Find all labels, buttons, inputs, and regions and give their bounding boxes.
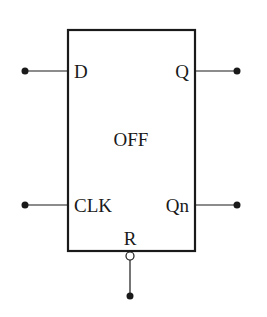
qn-label: Qn	[166, 195, 190, 216]
flip-flop-diagram: D Q OFF CLK Qn R	[0, 0, 267, 317]
r-label: R	[124, 228, 137, 249]
d-label: D	[74, 61, 88, 82]
inversion-bubble-icon	[126, 252, 134, 260]
d-terminal-dot[interactable]	[22, 68, 29, 75]
clk-label: CLK	[74, 195, 112, 216]
port-r[interactable]: R	[124, 228, 137, 300]
q-label: Q	[175, 61, 189, 82]
port-q[interactable]: Q	[175, 61, 240, 82]
port-clk[interactable]: CLK	[22, 195, 113, 216]
q-terminal-dot[interactable]	[234, 68, 241, 75]
qn-terminal-dot[interactable]	[234, 202, 241, 209]
clk-terminal-dot[interactable]	[22, 202, 29, 209]
port-qn[interactable]: Qn	[166, 195, 241, 216]
r-terminal-dot[interactable]	[127, 293, 134, 300]
port-d[interactable]: D	[22, 61, 88, 82]
block-label: OFF	[114, 129, 149, 150]
